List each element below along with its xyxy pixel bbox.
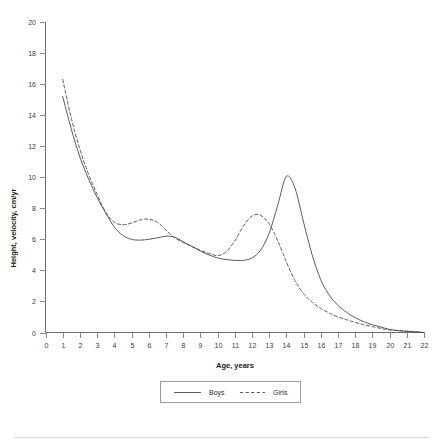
height-velocity-chart: 02468101214161820 0123456789101112131415… — [0, 0, 443, 446]
y-tick-label: 6 — [32, 236, 36, 243]
x-tick-label: 15 — [301, 342, 309, 349]
legend-label-boys: Boys — [209, 389, 225, 397]
y-tick-label: 14 — [28, 112, 36, 119]
x-tick-label: 12 — [249, 342, 257, 349]
x-tick-label: 21 — [404, 342, 412, 349]
axes — [46, 22, 425, 333]
x-tick-label: 0 — [45, 342, 49, 349]
y-tick-label: 0 — [32, 330, 36, 337]
legend-label-girls: Girls — [273, 389, 288, 396]
x-tick-label: 6 — [148, 342, 152, 349]
x-tick-label: 9 — [199, 342, 203, 349]
x-tick-label: 18 — [352, 342, 360, 349]
y-tick-label: 20 — [28, 19, 36, 26]
x-tick-label: 17 — [335, 342, 343, 349]
y-tick-label: 4 — [32, 267, 36, 274]
x-tick-label: 5 — [131, 342, 135, 349]
chart-svg: 02468101214161820 0123456789101112131415… — [0, 0, 443, 446]
x-tick-label: 14 — [283, 342, 291, 349]
x-tick-label: 22 — [421, 342, 429, 349]
x-tick-label: 19 — [369, 342, 377, 349]
x-tick-label: 10 — [215, 342, 223, 349]
y-tick-label: 12 — [28, 143, 36, 150]
x-tick-label: 8 — [182, 342, 186, 349]
x-tick-label: 1 — [62, 342, 66, 349]
x-tick-label: 2 — [79, 342, 83, 349]
y-axis-title: Height, velocity, cm/yr — [9, 188, 18, 267]
x-tick-label: 3 — [96, 342, 100, 349]
y-tick-label: 16 — [28, 81, 36, 88]
x-tick-label: 7 — [165, 342, 169, 349]
y-axis-ticks: 02468101214161820 — [28, 19, 45, 337]
x-tick-label: 11 — [232, 342, 239, 349]
x-tick-label: 20 — [387, 342, 395, 349]
x-axis-title: Age, years — [216, 361, 254, 370]
y-tick-label: 2 — [32, 298, 36, 305]
x-tick-label: 13 — [266, 342, 274, 349]
x-axis-ticks: 012345678910111213141516171819202122 — [45, 333, 429, 350]
y-tick-label: 18 — [28, 50, 36, 57]
x-tick-label: 4 — [113, 342, 117, 349]
data-series-group — [63, 79, 424, 332]
y-tick-label: 10 — [28, 174, 36, 181]
y-tick-label: 8 — [32, 205, 36, 212]
x-tick-label: 16 — [318, 342, 326, 349]
series-line-girls — [63, 79, 424, 332]
chart-legend: Boys Girls — [161, 382, 301, 403]
series-line-boys — [63, 97, 424, 333]
